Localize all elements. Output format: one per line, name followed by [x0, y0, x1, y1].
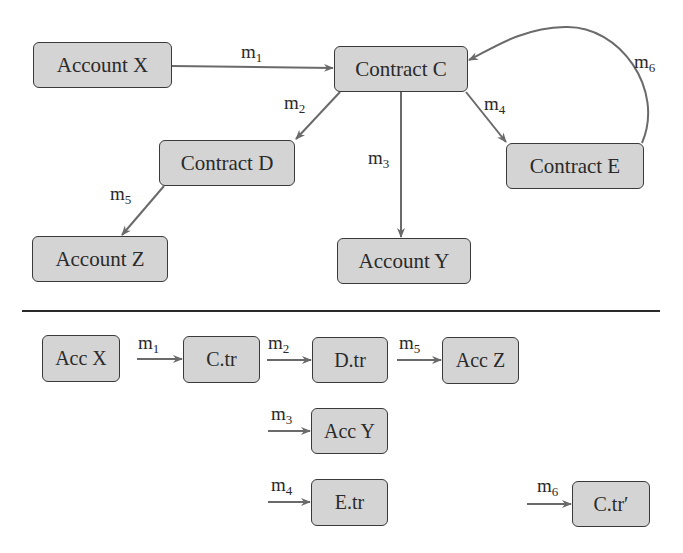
edge-m1 — [172, 66, 333, 68]
edge-label-m6: m6 — [634, 52, 655, 74]
node-label: Contract C — [355, 57, 447, 82]
node-label: Contract D — [181, 151, 274, 176]
node-label: E.tr — [335, 491, 364, 514]
node-label: Account Y — [359, 249, 450, 274]
node-label: C.tr′ — [594, 493, 629, 516]
chain-label-m2: m2 — [268, 333, 289, 355]
chain-label-m5: m5 — [399, 333, 420, 355]
node-label: Acc X — [55, 347, 107, 370]
node-d-tr: D.tr — [312, 337, 388, 383]
node-c-tr-prime: C.tr′ — [572, 481, 650, 527]
edge-label-m3: m3 — [368, 148, 389, 170]
edge-label-m5: m5 — [110, 184, 131, 206]
node-acc-x: Acc X — [42, 335, 120, 382]
edge-label-m1: m1 — [241, 42, 262, 64]
node-acc-y: Acc Y — [311, 408, 388, 454]
node-account-y: Account Y — [337, 238, 471, 284]
edge-label-m2: m2 — [284, 93, 305, 115]
node-label: Acc Z — [456, 349, 505, 372]
node-acc-z: Acc Z — [442, 337, 519, 384]
chain-label-m6: m6 — [537, 476, 558, 498]
node-e-tr: E.tr — [311, 479, 388, 526]
chain-label-m4: m4 — [271, 475, 292, 497]
node-contract-c: Contract C — [334, 46, 468, 92]
node-contract-d: Contract D — [159, 140, 295, 186]
chain-label-m3: m3 — [271, 404, 292, 426]
edge-m6 — [469, 27, 648, 143]
edge-label-m4: m4 — [484, 94, 505, 116]
node-account-z: Account Z — [32, 236, 168, 282]
node-label: D.tr — [334, 349, 366, 372]
node-contract-e: Contract E — [506, 143, 644, 189]
node-label: Account X — [57, 53, 149, 78]
node-label: C.tr — [206, 348, 237, 371]
node-label: Contract E — [530, 154, 620, 179]
section-divider — [22, 310, 660, 312]
node-label: Account Z — [55, 247, 144, 272]
chain-label-m1: m1 — [138, 333, 159, 355]
node-account-x: Account X — [33, 42, 172, 88]
node-label: Acc Y — [324, 420, 375, 443]
node-c-tr: C.tr — [183, 336, 260, 383]
